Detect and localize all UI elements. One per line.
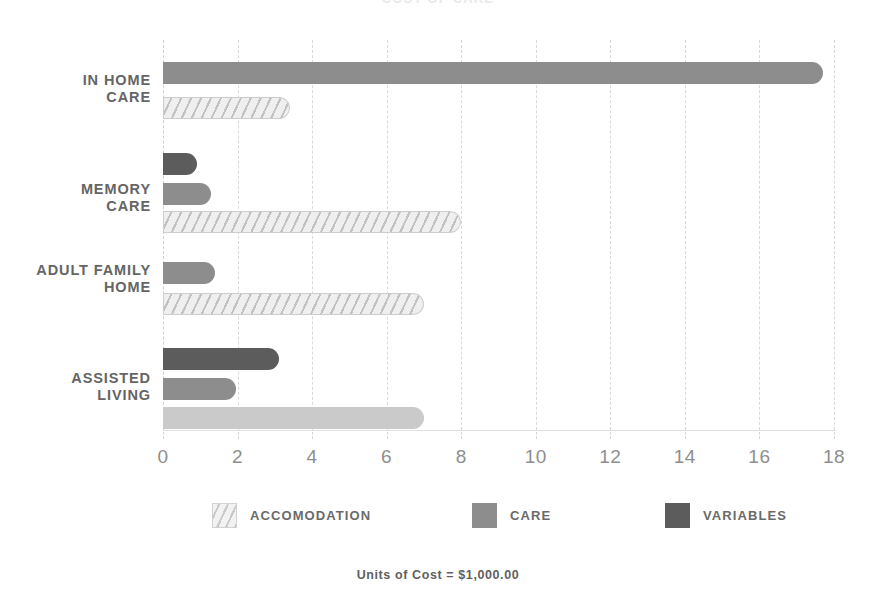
gridline-12: [610, 40, 611, 430]
x-tick-label-18: 18: [823, 446, 845, 468]
category-label-0: IN HOME CARE: [83, 72, 151, 106]
x-tick-label-8: 8: [456, 446, 467, 468]
legend-label: CARE: [510, 508, 551, 523]
x-tick-label-12: 12: [599, 446, 621, 468]
legend-swatch-variables-icon: [665, 503, 690, 528]
legend-swatch-accomodation-icon: [212, 503, 237, 528]
legend-item-care[interactable]: CARE: [472, 498, 551, 532]
gridline-16: [759, 40, 760, 430]
gridline-18: [834, 40, 835, 430]
gridline-10: [536, 40, 537, 430]
gridline-14: [685, 40, 686, 430]
bar-1-care: [163, 183, 211, 205]
x-tick-mark-8: [461, 432, 462, 439]
x-tick-mark-0: [163, 432, 164, 439]
legend-item-variables[interactable]: VARIABLES: [665, 498, 787, 532]
x-axis-line: [163, 430, 836, 431]
x-tick-mark-14: [685, 432, 686, 439]
legend-label: ACCOMODATION: [250, 508, 371, 523]
bar-2-accomodation: [163, 293, 424, 315]
chart-title: COST OF CARE: [0, 0, 876, 5]
x-tick-mark-4: [312, 432, 313, 439]
bar-3-accomodation: [163, 407, 424, 429]
gridline-6: [387, 40, 388, 430]
x-tick-label-6: 6: [381, 446, 392, 468]
bar-0-accomodation: [163, 97, 290, 119]
x-tick-mark-10: [536, 432, 537, 439]
x-tick-label-16: 16: [748, 446, 770, 468]
gridline-8: [461, 40, 462, 430]
category-label-2: ADULT FAMILY HOME: [36, 262, 151, 296]
legend-label: VARIABLES: [703, 508, 787, 523]
bar-1-variables: [163, 153, 197, 175]
x-tick-label-14: 14: [674, 446, 696, 468]
bar-3-care: [163, 378, 236, 400]
x-tick-label-0: 0: [157, 446, 168, 468]
category-label-1: MEMORY CARE: [81, 181, 151, 215]
x-tick-mark-18: [834, 432, 835, 439]
x-tick-label-4: 4: [307, 446, 318, 468]
units-of-cost-note: Units of Cost = $1,000.00: [0, 568, 876, 582]
gridline-4: [312, 40, 313, 430]
cost-of-care-chart: COST OF CARE 024681012141618IN HOME CARE…: [0, 0, 876, 607]
category-label-3: ASSISTED LIVING: [71, 370, 151, 404]
x-tick-mark-6: [387, 432, 388, 439]
bar-2-care: [163, 262, 215, 284]
bar-3-variables: [163, 348, 279, 370]
x-tick-mark-12: [610, 432, 611, 439]
legend-swatch-care-icon: [472, 503, 497, 528]
x-tick-label-2: 2: [232, 446, 243, 468]
x-tick-mark-16: [759, 432, 760, 439]
bar-1-accomodation: [163, 211, 461, 233]
chart-legend: ACCOMODATIONCAREVARIABLES: [0, 498, 876, 532]
x-tick-mark-2: [238, 432, 239, 439]
bar-0-care: [163, 62, 823, 84]
legend-item-accomodation[interactable]: ACCOMODATION: [212, 498, 371, 532]
x-tick-label-10: 10: [525, 446, 547, 468]
